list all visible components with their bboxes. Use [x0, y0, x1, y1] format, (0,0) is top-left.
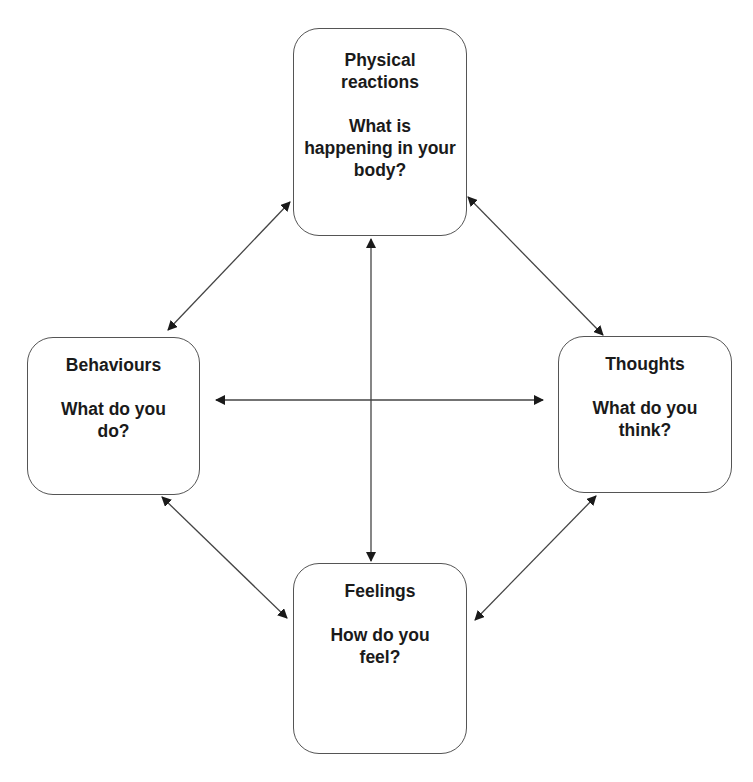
node-question: What is happening in your body? — [294, 115, 466, 181]
arrow-thoughts-feelings — [475, 496, 596, 620]
node-title: Feelings — [294, 580, 466, 602]
node-behaviours: Behaviours What do you do? — [27, 337, 200, 495]
arrow-physical-thoughts — [468, 197, 603, 335]
arrow-behaviours-feelings — [162, 497, 287, 618]
node-thoughts: Thoughts What do you think? — [558, 336, 732, 493]
arrow-physical-behaviours — [168, 202, 290, 330]
node-question: What do you do? — [28, 398, 199, 442]
node-feelings: Feelings How do you feel? — [293, 563, 467, 754]
node-title: Thoughts — [559, 353, 731, 375]
node-question: What do you think? — [559, 397, 731, 441]
node-question: How do you feel? — [294, 624, 466, 668]
node-title: Behaviours — [28, 354, 199, 376]
node-title: Physical reactions — [294, 49, 466, 93]
node-physical-reactions: Physical reactions What is happening in … — [293, 28, 467, 236]
